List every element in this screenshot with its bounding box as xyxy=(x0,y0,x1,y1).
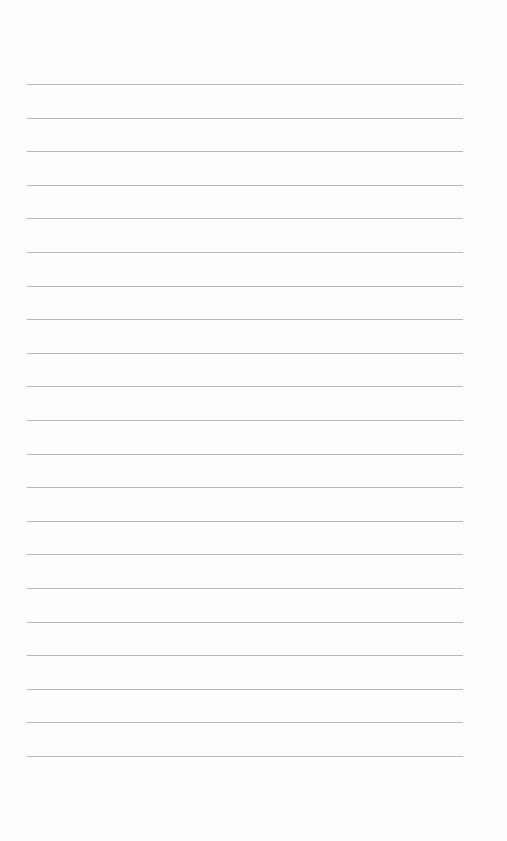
ruled-line xyxy=(27,319,463,320)
ruled-line xyxy=(27,218,463,219)
ruled-line xyxy=(27,151,463,152)
ruled-line xyxy=(27,118,463,119)
ruled-line xyxy=(27,588,463,589)
lined-paper-page xyxy=(0,0,507,841)
ruled-line xyxy=(27,655,463,656)
ruled-line xyxy=(27,622,463,623)
ruled-line xyxy=(27,521,463,522)
ruled-line xyxy=(27,252,463,253)
ruled-line xyxy=(27,554,463,555)
ruled-line xyxy=(27,689,463,690)
ruled-line xyxy=(27,756,463,757)
ruled-line xyxy=(27,722,463,723)
ruled-line xyxy=(27,84,463,85)
ruled-line xyxy=(27,353,463,354)
ruled-line xyxy=(27,487,463,488)
ruled-line xyxy=(27,386,463,387)
ruled-line xyxy=(27,454,463,455)
ruled-line xyxy=(27,185,463,186)
ruled-line xyxy=(27,420,463,421)
ruled-line xyxy=(27,286,463,287)
